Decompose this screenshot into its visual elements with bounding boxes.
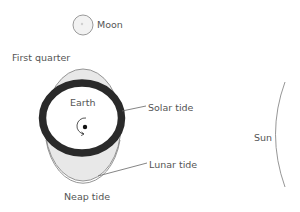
- solar-tide-leader: [122, 106, 146, 111]
- solar-tide-label: Solar tide: [148, 102, 194, 113]
- neap-tide-diagram: Moon First quarter Earth Solar tide Luna…: [0, 0, 300, 212]
- moon-label: Moon: [97, 19, 123, 30]
- neap-tide-label: Neap tide: [64, 191, 110, 202]
- earth-label: Earth: [70, 97, 95, 108]
- lunar-tide-label: Lunar tide: [149, 159, 197, 170]
- moon-circle: [73, 15, 93, 35]
- sun-label: Sun: [254, 132, 272, 143]
- phase-label: First quarter: [12, 52, 70, 63]
- moon: [73, 15, 93, 35]
- moon-crater: [81, 23, 83, 25]
- sun-arc: [276, 82, 286, 187]
- earth-center-dot: [83, 125, 87, 129]
